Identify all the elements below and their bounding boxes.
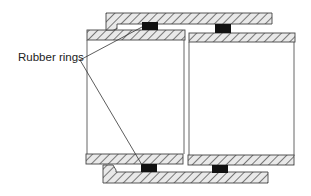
- right-pipe-top-wall: [189, 33, 295, 42]
- leader-lines: [80, 27, 142, 165]
- left-pipe-top-wall: [87, 30, 185, 40]
- right-pipe: [188, 33, 295, 165]
- outer-sleeve-bottom: [103, 165, 268, 183]
- rubber-rings-label: Rubber rings: [18, 51, 84, 63]
- pipe-coupling-diagram: Rubber rings: [0, 0, 311, 196]
- rubber-ring-top-right: [215, 24, 231, 33]
- rubber-ring-bottom-right: [212, 165, 228, 173]
- right-pipe-bottom-wall: [188, 155, 294, 165]
- rubber-ring-bottom-left: [141, 164, 157, 172]
- outer-sleeve-top: [106, 13, 272, 30]
- rubber-ring-top-left: [142, 22, 158, 30]
- left-pipe: [86, 30, 185, 164]
- left-pipe-bottom-wall: [86, 154, 183, 164]
